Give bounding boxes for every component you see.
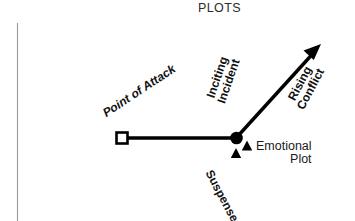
inciting-incident-circle-marker [230, 132, 243, 145]
emotional-plot-marker-upper [242, 141, 252, 151]
emotional-plot-marker-lower [231, 148, 241, 158]
rising-conflict-arrowhead [304, 44, 322, 60]
plot-diagram-canvas: PLOTS Point of Attack Inciting Incident … [0, 0, 355, 221]
diagram-graphics [0, 0, 355, 221]
label-emotional-plot: Emotional Plot [256, 140, 312, 166]
label-emotional-plot-line2: Plot [256, 153, 312, 166]
page-title: PLOTS [198, 2, 241, 15]
point-of-attack-square-marker [117, 133, 128, 144]
label-emotional-plot-line1: Emotional [256, 140, 312, 153]
